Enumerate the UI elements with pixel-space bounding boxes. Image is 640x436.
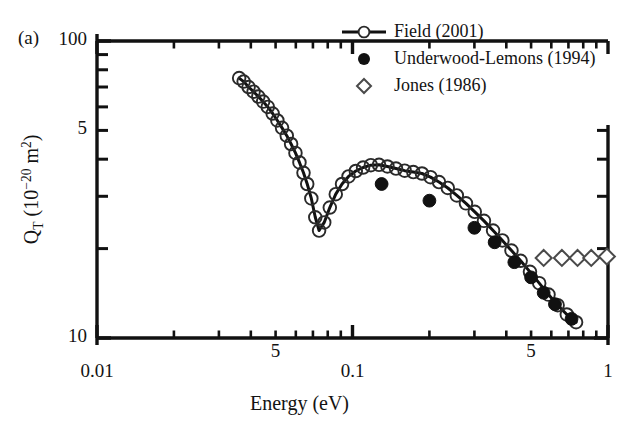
x-tick-label: 1 [573, 360, 640, 382]
data-point-filled-circle [537, 286, 550, 299]
y-axis-units-exponent: −20 [19, 169, 34, 190]
legend-marker-line-open-circle-icon [338, 21, 390, 43]
legend-entry-0: Field (2001) [338, 18, 595, 45]
legend-marker-open-diamond-icon [338, 75, 390, 97]
y-axis-label-symbol: Q [20, 230, 42, 244]
data-point-filled-circle [423, 194, 436, 207]
data-point-filled-circle [375, 178, 388, 191]
data-point-open-diamond [554, 250, 570, 266]
legend-entry-2: Jones (1986) [338, 72, 595, 99]
legend-entry-1: Underwood-Lemons (1994) [338, 45, 595, 72]
y-tick-label: 5 [31, 117, 87, 139]
y-tick-label: 10 [31, 325, 87, 347]
x-tick-label: 5 [496, 340, 566, 362]
data-point-open-diamond [599, 249, 615, 265]
data-point-filled-circle [549, 298, 562, 311]
y-axis-label-subscript: T [31, 221, 46, 229]
x-tick-label: 0.1 [318, 360, 388, 382]
y-axis-units-close: m [20, 148, 42, 169]
legend-marker-filled-circle-icon [338, 48, 390, 70]
x-axis-label: Energy (eV) [250, 392, 349, 415]
y-axis-units-open: (10 [20, 190, 42, 222]
data-series-group [233, 72, 615, 329]
legend: Field (2001)Underwood-Lemons (1994)Jones… [338, 18, 595, 99]
series-line-0 [239, 78, 576, 322]
y-tick-label: 100 [31, 28, 87, 50]
data-point-open-diamond [536, 250, 552, 266]
legend-label: Jones (1986) [390, 75, 487, 96]
data-point-filled-circle [468, 221, 481, 234]
legend-label: Field (2001) [390, 21, 484, 42]
data-point-filled-circle [488, 236, 501, 249]
x-tick-label: 5 [241, 340, 311, 362]
data-point-filled-circle [508, 256, 521, 269]
x-tick-label: 0.01 [62, 360, 132, 382]
data-point-filled-circle [525, 271, 538, 284]
legend-label: Underwood-Lemons (1994) [390, 48, 595, 69]
y-axis-units-square: 2 [19, 141, 34, 148]
data-point-filled-circle [565, 312, 578, 325]
data-point-open-diamond [583, 250, 599, 266]
